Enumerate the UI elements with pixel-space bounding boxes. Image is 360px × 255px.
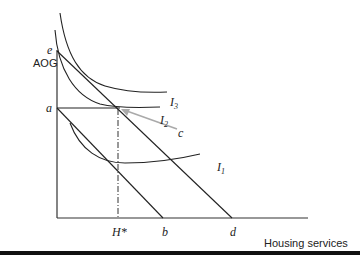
- bottom-border: [0, 251, 360, 255]
- i1-sub: 1: [221, 167, 225, 176]
- h-star-label: H*: [112, 226, 127, 238]
- i3-label: I3: [170, 96, 178, 111]
- point-c-label: c: [178, 127, 183, 139]
- indifference-curve-i3: [60, 13, 167, 92]
- budget-line-ab: [57, 108, 163, 218]
- point-a-label: a: [46, 102, 52, 114]
- i3-sub: 3: [174, 102, 178, 111]
- arrow-c-shaft: [124, 110, 177, 129]
- point-e-label: e: [47, 44, 52, 56]
- y-axis-label: AOG: [33, 58, 57, 69]
- x-axis-label: Housing services: [264, 238, 348, 249]
- point-d-label: d: [230, 226, 236, 238]
- i2-label: I2: [160, 114, 168, 129]
- i1-label: I1: [217, 161, 225, 176]
- point-b-label: b: [162, 226, 168, 238]
- i2-sub: 2: [164, 120, 168, 129]
- indifference-curve-i2: [55, 30, 160, 108]
